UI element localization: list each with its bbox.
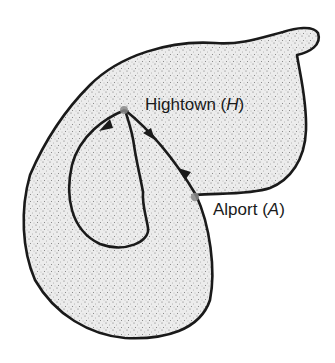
hightown-suffix: ): [239, 95, 245, 114]
hightown-abbr: H: [226, 95, 238, 114]
hightown-label: Hightown (H): [145, 95, 244, 115]
alport-abbr: A: [268, 200, 279, 219]
alport-name: Alport (: [213, 200, 268, 219]
hightown-dot: [120, 106, 128, 114]
island-outline: [24, 28, 319, 338]
hightown-name: Hightown (: [145, 95, 226, 114]
island-map: [0, 0, 335, 363]
alport-label: Alport (A): [213, 200, 285, 220]
alport-dot: [191, 193, 199, 201]
alport-suffix: ): [279, 200, 285, 219]
